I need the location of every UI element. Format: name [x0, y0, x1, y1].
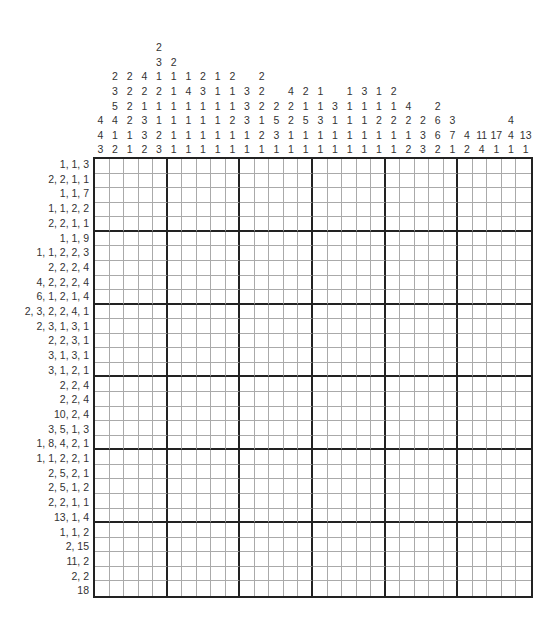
grid-cell[interactable]	[168, 188, 183, 203]
grid-cell[interactable]	[371, 479, 386, 494]
grid-cell[interactable]	[328, 203, 343, 218]
grid-cell[interactable]	[371, 523, 386, 538]
grid-cell[interactable]	[487, 421, 502, 436]
grid-cell[interactable]	[386, 276, 401, 291]
grid-cell[interactable]	[328, 377, 343, 392]
grid-cell[interactable]	[226, 581, 241, 596]
grid-cell[interactable]	[226, 319, 241, 334]
grid-cell[interactable]	[110, 246, 125, 261]
grid-cell[interactable]	[502, 334, 517, 349]
grid-cell[interactable]	[298, 407, 313, 422]
grid-cell[interactable]	[269, 363, 284, 378]
grid-cell[interactable]	[386, 261, 401, 276]
grid-cell[interactable]	[516, 174, 531, 189]
grid-cell[interactable]	[386, 203, 401, 218]
grid-cell[interactable]	[255, 246, 270, 261]
grid-cell[interactable]	[473, 188, 488, 203]
grid-cell[interactable]	[487, 348, 502, 363]
grid-cell[interactable]	[429, 552, 444, 567]
grid-cell[interactable]	[473, 479, 488, 494]
grid-cell[interactable]	[473, 538, 488, 553]
grid-cell[interactable]	[342, 217, 357, 232]
grid-cell[interactable]	[124, 421, 139, 436]
grid-cell[interactable]	[487, 203, 502, 218]
grid-cell[interactable]	[269, 305, 284, 320]
grid-cell[interactable]	[357, 407, 372, 422]
grid-cell[interactable]	[240, 494, 255, 509]
grid-cell[interactable]	[139, 567, 154, 582]
grid-cell[interactable]	[110, 509, 125, 524]
grid-cell[interactable]	[298, 538, 313, 553]
grid-cell[interactable]	[211, 552, 226, 567]
grid-cell[interactable]	[357, 494, 372, 509]
grid-cell[interactable]	[386, 552, 401, 567]
grid-cell[interactable]	[400, 450, 415, 465]
grid-cell[interactable]	[139, 392, 154, 407]
grid-cell[interactable]	[182, 450, 197, 465]
grid-cell[interactable]	[516, 319, 531, 334]
grid-cell[interactable]	[458, 377, 473, 392]
grid-cell[interactable]	[139, 552, 154, 567]
grid-cell[interactable]	[473, 581, 488, 596]
grid-cell[interactable]	[371, 290, 386, 305]
grid-cell[interactable]	[255, 494, 270, 509]
grid-cell[interactable]	[240, 305, 255, 320]
grid-cell[interactable]	[124, 407, 139, 422]
grid-cell[interactable]	[502, 363, 517, 378]
grid-cell[interactable]	[124, 188, 139, 203]
grid-cell[interactable]	[502, 348, 517, 363]
grid-cell[interactable]	[386, 581, 401, 596]
grid-cell[interactable]	[124, 494, 139, 509]
grid-cell[interactable]	[298, 246, 313, 261]
grid-cell[interactable]	[95, 392, 110, 407]
grid-cell[interactable]	[255, 377, 270, 392]
grid-cell[interactable]	[444, 319, 459, 334]
grid-cell[interactable]	[458, 232, 473, 247]
grid-cell[interactable]	[95, 407, 110, 422]
grid-cell[interactable]	[400, 203, 415, 218]
grid-cell[interactable]	[255, 509, 270, 524]
grid-cell[interactable]	[386, 392, 401, 407]
grid-cell[interactable]	[313, 581, 328, 596]
grid-cell[interactable]	[255, 276, 270, 291]
grid-cell[interactable]	[255, 159, 270, 174]
grid-cell[interactable]	[342, 523, 357, 538]
grid-cell[interactable]	[313, 567, 328, 582]
grid-cell[interactable]	[473, 348, 488, 363]
grid-cell[interactable]	[95, 246, 110, 261]
grid-cell[interactable]	[328, 290, 343, 305]
grid-cell[interactable]	[458, 421, 473, 436]
grid-cell[interactable]	[371, 581, 386, 596]
grid-cell[interactable]	[182, 567, 197, 582]
grid-cell[interactable]	[226, 436, 241, 451]
grid-cell[interactable]	[458, 407, 473, 422]
grid-cell[interactable]	[313, 538, 328, 553]
grid-cell[interactable]	[153, 392, 168, 407]
grid-cell[interactable]	[197, 494, 212, 509]
grid-cell[interactable]	[255, 217, 270, 232]
grid-cell[interactable]	[516, 392, 531, 407]
grid-cell[interactable]	[240, 363, 255, 378]
grid-cell[interactable]	[371, 538, 386, 553]
grid-cell[interactable]	[110, 567, 125, 582]
grid-cell[interactable]	[458, 363, 473, 378]
grid-cell[interactable]	[487, 581, 502, 596]
grid-cell[interactable]	[516, 523, 531, 538]
grid-cell[interactable]	[124, 290, 139, 305]
grid-cell[interactable]	[473, 261, 488, 276]
grid-cell[interactable]	[168, 392, 183, 407]
grid-cell[interactable]	[211, 203, 226, 218]
grid-cell[interactable]	[357, 217, 372, 232]
grid-cell[interactable]	[197, 581, 212, 596]
grid-cell[interactable]	[226, 159, 241, 174]
grid-cell[interactable]	[95, 552, 110, 567]
grid-cell[interactable]	[284, 436, 299, 451]
grid-cell[interactable]	[240, 290, 255, 305]
grid-cell[interactable]	[444, 334, 459, 349]
grid-cell[interactable]	[298, 203, 313, 218]
grid-cell[interactable]	[429, 276, 444, 291]
grid-cell[interactable]	[342, 246, 357, 261]
grid-cell[interactable]	[240, 479, 255, 494]
grid-cell[interactable]	[429, 436, 444, 451]
grid-cell[interactable]	[255, 465, 270, 480]
